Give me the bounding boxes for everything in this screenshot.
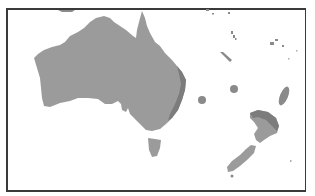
new-caledonia	[220, 52, 232, 62]
fiji-islands	[270, 39, 284, 47]
lord-howe-island-marker	[198, 96, 206, 104]
solomon-islands	[206, 9, 230, 15]
minor-islands	[288, 50, 298, 162]
australia-landmass	[34, 11, 186, 131]
stewart-island	[231, 175, 234, 178]
new-guinea-fragment	[58, 10, 75, 12]
vanuatu-islands	[231, 31, 237, 40]
tasmania	[148, 138, 161, 157]
kermadec-islands-marker	[277, 85, 292, 107]
map-canvas	[0, 0, 315, 196]
nz-south-island	[227, 145, 256, 172]
norfolk-island-marker	[230, 85, 238, 93]
